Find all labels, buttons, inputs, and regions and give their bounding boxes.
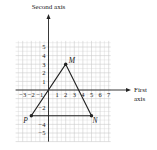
y-tick-label: −5 (39, 129, 46, 136)
y-tick-label: 1 (42, 78, 45, 85)
x-tick-label: 3 (73, 91, 76, 98)
x-tick-label: 2 (64, 91, 67, 98)
y-axis-arrow-icon (47, 14, 51, 19)
x-tick-label: −1 (36, 91, 43, 98)
x-axis-arrow-icon (126, 88, 131, 92)
x-tick-label: 5 (90, 91, 93, 98)
x-tick-label: −2 (28, 91, 35, 98)
x-axis-label-axis: axis (134, 95, 146, 103)
x-tick-label: 7 (107, 91, 111, 98)
point-label-p: P (22, 116, 28, 125)
y-tick-label: −2 (39, 104, 46, 111)
y-tick-label: 5 (42, 43, 45, 50)
x-tick-label: −3 (19, 91, 26, 98)
point-p (30, 114, 33, 117)
x-axis-label-first: First (134, 86, 147, 94)
point-label-n: N (92, 116, 99, 125)
x-tick-label: 6 (98, 91, 102, 98)
x-tick-label: 1 (55, 91, 58, 98)
y-axis-label: Second axis (32, 3, 66, 11)
y-tick-label: −4 (39, 121, 47, 128)
point-m (64, 62, 67, 65)
coordinate-plane: −3−2−1123456754321−2−4−5 MNP Second axis… (0, 0, 157, 150)
y-tick-label: 2 (42, 69, 45, 76)
axes (16, 14, 131, 142)
point-label-m: M (68, 56, 76, 65)
y-tick-label: 3 (42, 61, 45, 68)
